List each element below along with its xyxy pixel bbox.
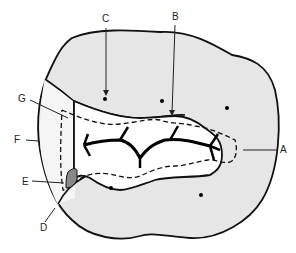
label-a: A xyxy=(280,144,287,155)
dot xyxy=(109,186,113,190)
arrow-d xyxy=(45,208,55,222)
dot xyxy=(103,97,107,101)
dot xyxy=(160,99,164,103)
tooth-diagram-svg: C B G F E D A xyxy=(0,0,296,253)
tooth-diagram: C B G F E D A xyxy=(0,0,296,253)
dot xyxy=(225,106,229,110)
arrow-f xyxy=(26,140,38,141)
label-c: C xyxy=(102,13,109,24)
dot xyxy=(199,193,203,197)
label-e: E xyxy=(22,176,29,187)
label-d: D xyxy=(40,222,47,233)
label-b: B xyxy=(172,11,179,22)
label-g: G xyxy=(18,93,26,104)
label-f: F xyxy=(14,134,20,145)
